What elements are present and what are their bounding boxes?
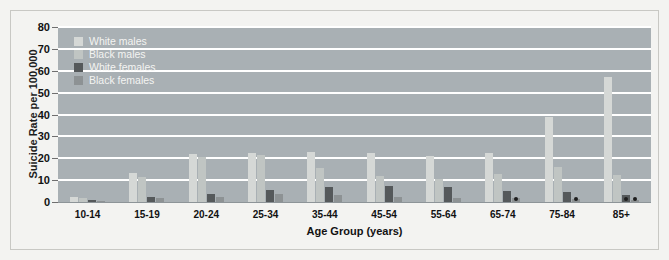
x-axis-title: Age Group (years) [58,225,651,237]
bar-group [236,27,295,202]
y-tick-label: 60 [20,66,50,77]
x-tick-label: 35-44 [295,209,354,220]
bar [435,179,443,202]
legend-label: White males [89,35,147,47]
bar [444,187,452,202]
bar [572,199,580,202]
bar [207,194,215,202]
bar [257,155,265,202]
bar-group [473,27,532,202]
legend-swatch-icon [74,37,83,46]
bar-group [355,27,414,202]
y-tick-label: 70 [20,44,50,55]
bar-group [177,27,236,202]
bar [376,176,384,202]
x-tick-label: 65-74 [473,209,532,220]
legend-swatch-icon [74,50,83,59]
bar [334,195,342,202]
legend-label: Black males [89,48,146,60]
legend-item: Black females [74,74,156,86]
y-tick-label: 10 [20,175,50,186]
bar [216,197,224,202]
legend-swatch-icon [74,63,83,72]
legend-item: White females [74,61,156,73]
bar [604,77,612,202]
bar [79,198,87,202]
bar [385,186,393,202]
bar [316,168,324,202]
bar [248,153,256,202]
x-tick-label: 25-34 [236,209,295,220]
x-tick-label: 85+ [592,209,651,220]
legend-swatch-icon [74,76,83,85]
x-tick-label: 45-54 [355,209,414,220]
bar [88,200,96,202]
bar [622,195,630,202]
bar [426,156,434,202]
bar-group [592,27,651,202]
bar [198,157,206,202]
bar [394,197,402,202]
bar [453,198,461,202]
x-tick-label: 20-24 [177,209,236,220]
bar-group [295,27,354,202]
bar [138,177,146,202]
x-axis-line [58,202,651,203]
bar [367,153,375,202]
bar [266,190,274,202]
x-tick-label: 75-84 [532,209,591,220]
bar [129,173,137,202]
y-tick-label: 80 [20,22,50,33]
legend-item: Black males [74,48,156,60]
bar [147,197,155,202]
bar [275,194,283,202]
near-zero-marker-icon [624,197,628,201]
y-tick-mark [52,202,58,203]
y-tick-label: 40 [20,110,50,121]
bar [307,152,315,202]
near-zero-marker-icon [514,197,518,201]
x-tick-label: 55-64 [414,209,473,220]
bar [325,187,333,202]
near-zero-marker-icon [633,197,637,201]
x-tick-label: 15-19 [117,209,176,220]
bar [189,154,197,202]
legend-label: White females [89,61,156,73]
bar [563,192,571,202]
bar [494,174,502,202]
bar [631,200,639,202]
bar [512,198,520,202]
y-tick-label: 0 [20,197,50,208]
legend-item: White males [74,35,156,47]
legend: White malesBlack malesWhite femalesBlack… [70,33,160,89]
bar [156,198,164,202]
bar-cluster [592,27,663,202]
x-tick-label: 10-14 [58,209,117,220]
y-tick-label: 20 [20,153,50,164]
y-tick-label: 30 [20,131,50,142]
bar-group [532,27,591,202]
bar [545,117,553,202]
bar [613,175,621,202]
y-tick-label: 50 [20,88,50,99]
bar [485,153,493,202]
near-zero-marker-icon [574,197,578,201]
chart-figure: Suicide Rate per 100,000 010203040506070… [0,0,669,260]
legend-label: Black females [89,74,154,86]
bar [503,191,511,202]
bar [97,201,105,202]
bar-group [414,27,473,202]
bar [70,197,78,202]
plot-area: 01020304050607080 10-1415-1920-2425-3435… [58,27,651,202]
bar [554,167,562,202]
